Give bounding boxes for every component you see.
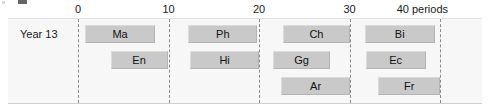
task-bar-gg[interactable]: Gg — [273, 51, 331, 69]
task-bar-label: Gg — [294, 55, 309, 66]
task-bar-label: Ma — [112, 29, 127, 40]
task-bar-label: Ec — [389, 55, 402, 66]
gridline-0 — [78, 19, 79, 103]
axis-tick-label-40: 40 periods — [397, 2, 448, 16]
axis-tick-label-20: 20 — [253, 2, 265, 16]
task-bar-label: Ar — [310, 81, 321, 92]
plot-area: Year 13 MaPhChBiEnHiGgEcArFr — [8, 18, 482, 104]
task-bar-label: Ph — [216, 29, 229, 40]
task-bar-ar[interactable]: Ar — [281, 77, 351, 95]
axis-tick-label-10: 10 — [162, 2, 174, 16]
task-bar-hi[interactable]: Hi — [190, 51, 259, 69]
axis-tick-label-0: 0 — [75, 2, 81, 16]
task-bar-label: Ch — [309, 29, 323, 40]
x-axis: 010203040 periods — [0, 2, 490, 18]
task-bar-label: Fr — [404, 81, 414, 92]
task-bar-label: Bi — [395, 29, 405, 40]
task-bar-ma[interactable]: Ma — [85, 25, 155, 43]
axis-tick-label-30: 30 — [343, 2, 355, 16]
gridline-40 — [440, 19, 441, 103]
task-bar-ch[interactable]: Ch — [283, 25, 351, 43]
row-label-year-13: Year 13 — [20, 25, 58, 43]
gridline-20 — [259, 19, 260, 103]
task-bar-en[interactable]: En — [111, 51, 168, 69]
task-bar-label: Hi — [219, 55, 229, 66]
task-bar-fr[interactable]: Fr — [378, 77, 440, 95]
task-bar-label: En — [132, 55, 145, 66]
task-bar-ec[interactable]: Ec — [366, 51, 426, 69]
gantt-timetable-chart: 010203040 periods Year 13 MaPhChBiEnHiGg… — [0, 0, 490, 111]
task-bar-ph[interactable]: Ph — [188, 25, 257, 43]
gridline-10 — [169, 19, 170, 103]
task-bar-bi[interactable]: Bi — [365, 25, 435, 43]
